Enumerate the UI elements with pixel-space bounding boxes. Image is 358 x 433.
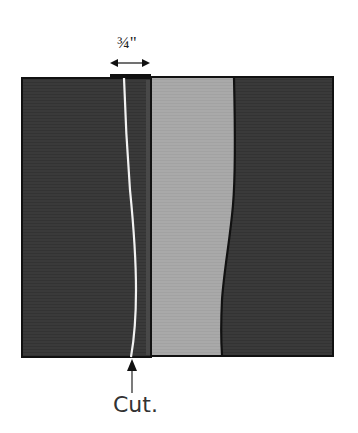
cut-label: Cut.: [113, 392, 158, 417]
cut-pointer-arrow: [127, 359, 137, 393]
measurement-label: ¾": [117, 33, 137, 53]
fold-strip: [146, 80, 150, 355]
measurement-arrow: [110, 59, 150, 67]
quilt-cut-diagram: [0, 0, 358, 433]
seam-allowance-tab: [110, 74, 151, 79]
